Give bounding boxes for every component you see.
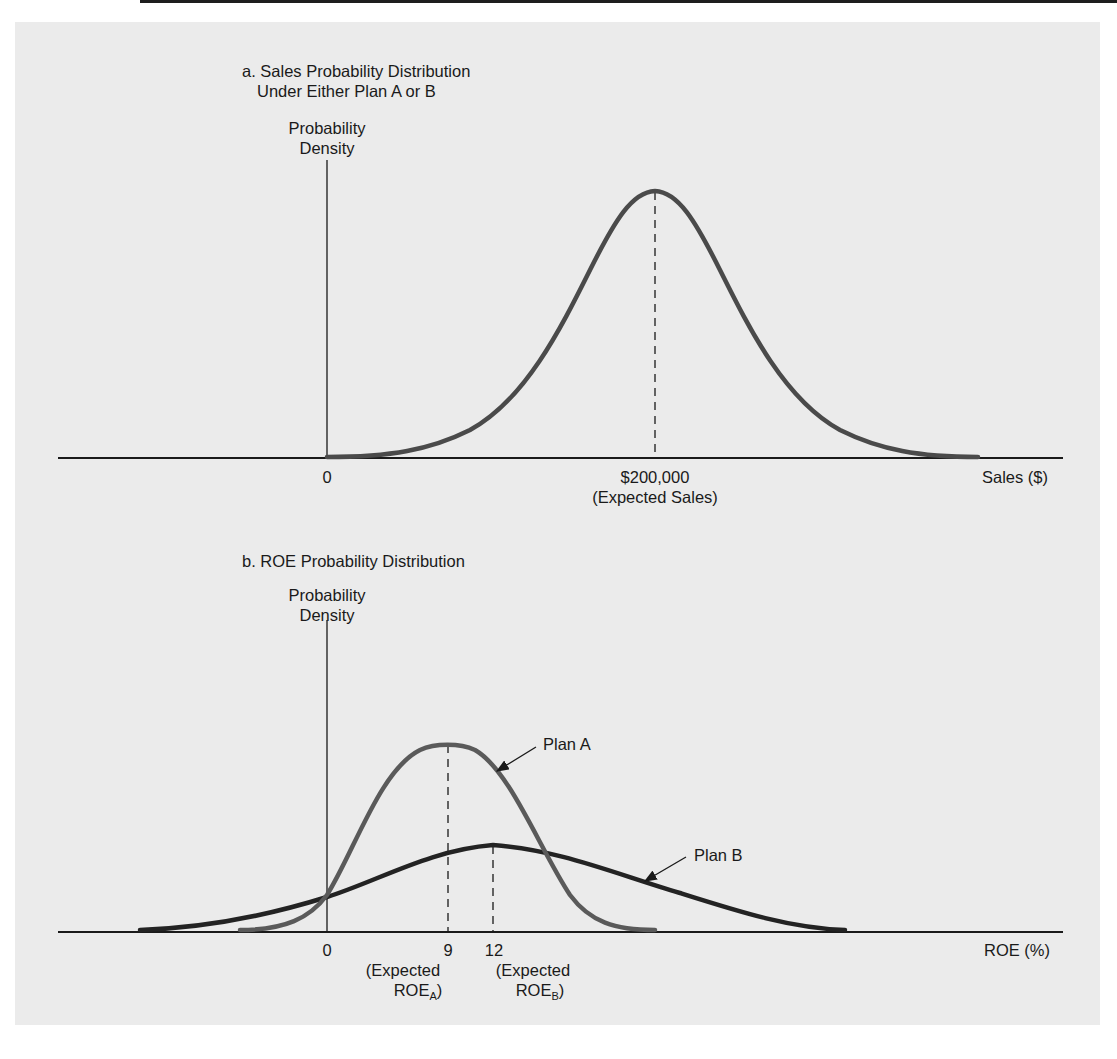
plan-b-label: Plan B xyxy=(694,846,743,865)
expected-roe-b-subscript: B xyxy=(551,990,558,1002)
panel-b-xlabel: ROE (%) xyxy=(984,941,1050,960)
panel-a-chart xyxy=(58,160,1063,458)
plan-b-arrow xyxy=(645,857,686,881)
panel-a-tick-expected: $200,000 xyxy=(575,468,735,487)
expected-roe-b-close: ) xyxy=(559,981,565,999)
panel-b-tick-zero: 0 xyxy=(317,941,337,960)
panel-a-tick-zero: 0 xyxy=(317,468,337,487)
panel-a-tick-expected-note: (Expected Sales) xyxy=(565,488,745,507)
panel-b-chart xyxy=(58,620,1063,932)
panel-a-ylabel-line2: Density xyxy=(277,139,377,158)
panel-a-xlabel: Sales ($) xyxy=(982,468,1048,487)
panel-b-ylabel-line1: Probability xyxy=(277,586,377,605)
sales-curve xyxy=(327,191,978,457)
expected-roe-a-text: ROE xyxy=(394,981,430,999)
panel-b-ylabel-line2: Density xyxy=(277,606,377,625)
expected-roe-a-line1: (Expected xyxy=(348,961,458,980)
plan-a-arrow xyxy=(497,747,536,771)
panel-b-title: b. ROE Probability Distribution xyxy=(242,552,465,571)
expected-roe-b-text: ROE xyxy=(516,981,552,999)
expected-roe-a-line2: ROEA) xyxy=(368,981,468,1002)
expected-roe-a-subscript: A xyxy=(429,990,436,1002)
panel-a-ylabel-line1: Probability xyxy=(277,119,377,138)
expected-roe-a-close: ) xyxy=(437,981,443,999)
panel-a-title-line2: Under Either Plan A or B xyxy=(257,82,436,101)
panel-a-title-line1: a. Sales Probability Distribution xyxy=(242,62,470,81)
figure-canvas xyxy=(0,0,1117,1059)
panel-b-tick-9: 9 xyxy=(438,941,458,960)
expected-roe-b-line1: (Expected xyxy=(478,961,588,980)
plan-a-label: Plan A xyxy=(543,735,591,754)
expected-roe-b-line2: ROEB) xyxy=(490,981,590,1002)
panel-b-tick-12: 12 xyxy=(479,941,509,960)
